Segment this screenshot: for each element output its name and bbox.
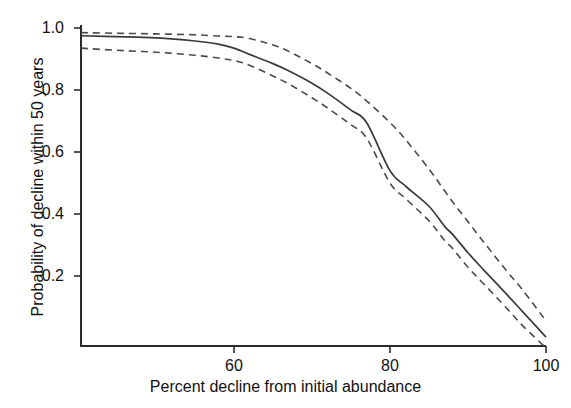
series-line-0 bbox=[81, 33, 546, 321]
x-axis-ticks bbox=[234, 346, 546, 353]
chart-figure: 1.0 0.8 0.6 0.4 0.2 60 80 100 Percent de… bbox=[0, 0, 571, 408]
data-curves bbox=[81, 33, 546, 348]
xtick-label-1: 60 bbox=[225, 358, 243, 374]
y-axis-ticks bbox=[74, 28, 81, 276]
series-line-2 bbox=[81, 48, 546, 348]
y-axis-title: Probability of decline within 50 years bbox=[29, 37, 47, 337]
xtick-label-3: 100 bbox=[533, 358, 560, 374]
xtick-label-2: 80 bbox=[381, 358, 399, 374]
plot-area bbox=[0, 0, 571, 408]
x-axis-title: Percent decline from initial abundance bbox=[0, 378, 571, 396]
ytick-label-1: 1.0 bbox=[18, 20, 64, 36]
series-line-1 bbox=[81, 36, 546, 337]
axis-lines bbox=[81, 25, 546, 346]
